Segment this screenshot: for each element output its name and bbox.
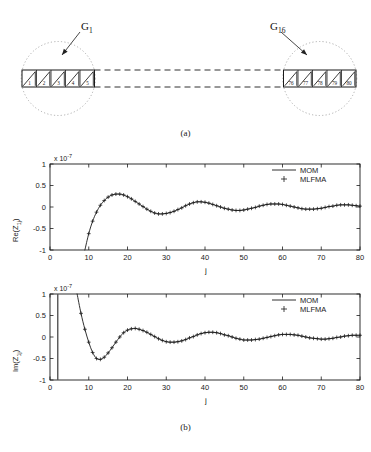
marker-plus (281, 203, 285, 207)
imag-part-plot-xtick-label: 40 (201, 383, 209, 392)
marker-plus (284, 203, 288, 207)
real-part-plot-xtick-label: 0 (48, 253, 52, 262)
marker-plus (168, 211, 172, 215)
imag-part-plot-xtick-label: 80 (356, 383, 364, 392)
marker-plus (184, 338, 188, 342)
marker-plus (315, 337, 319, 341)
cell-index-label: 4 (72, 80, 75, 86)
marker-plus (191, 201, 195, 205)
imag-part-plot-xtick-label: 10 (85, 383, 93, 392)
marker-plus (253, 338, 257, 342)
marker-plus (277, 333, 281, 337)
marker-plus (157, 337, 161, 341)
real-part-plot-xtick-label: 60 (278, 253, 286, 262)
marker-plus (257, 337, 261, 341)
real-part-plot-ytick-label: 0.5 (36, 181, 46, 190)
cell-index-label: 78 (317, 80, 323, 86)
marker-plus (157, 212, 161, 216)
marker-plus (91, 351, 95, 355)
marker-plus (343, 203, 347, 207)
marker-plus (261, 203, 265, 207)
marker-plus (129, 327, 133, 331)
marker-plus (87, 232, 91, 236)
cell-group-G1: 12345 (22, 70, 95, 87)
marker-plus (95, 210, 99, 214)
caption-b: (b) (0, 422, 371, 432)
marker-plus (207, 330, 211, 334)
marker-plus (188, 202, 192, 206)
marker-plus (253, 206, 257, 210)
imag-plot-legend-mlfma: MLFMA (300, 305, 326, 314)
imag-part-plot-ytick-label: -1 (39, 376, 46, 385)
marker-plus (114, 192, 118, 196)
marker-plus (312, 336, 316, 340)
marker-plus (269, 202, 273, 206)
marker-plus (164, 340, 168, 344)
imag-part-plot-xtick-label: 0 (48, 383, 52, 392)
real-part-plot-ytick-label: -1 (39, 246, 46, 255)
imag-part-plot-xtick-label: 20 (123, 383, 131, 392)
marker-plus (230, 335, 234, 339)
marker-plus (222, 333, 226, 337)
marker-plus (203, 331, 207, 335)
marker-plus (308, 336, 312, 340)
marker-plus (222, 206, 226, 210)
marker-plus (79, 311, 83, 315)
marker-plus (191, 335, 195, 339)
marker-plus (250, 338, 254, 342)
real-part-plot-series-mom-line (85, 194, 360, 250)
marker-plus (350, 203, 354, 207)
caption-a: (a) (0, 128, 371, 138)
real-part-plot-ytick-label: -0.5 (33, 224, 46, 233)
imag-plot-legend-mom: MOM (300, 296, 318, 305)
marker-plus (215, 204, 219, 208)
marker-plus (242, 208, 246, 212)
arrow-to-g1-head (62, 49, 68, 55)
marker-plus (126, 328, 130, 332)
cell-index-label: 3 (57, 80, 60, 86)
marker-plus (149, 209, 153, 213)
cell-index-label: 1 (28, 80, 31, 86)
real-part-plot-xtick-label: 40 (201, 253, 209, 262)
marker-plus (122, 193, 126, 197)
cell-index-label: 5 (86, 80, 89, 86)
marker-plus (234, 209, 238, 213)
cell-group-G16: 7677787980 (284, 70, 357, 87)
marker-plus (319, 337, 323, 341)
marker-plus (87, 340, 91, 344)
imag-part-plot-ytick-label: -0.5 (33, 354, 46, 363)
marker-plus (211, 330, 215, 334)
marker-plus (250, 206, 254, 210)
real-part-plot: x 10-7 Re(Z1j) 01020304050607080-1-0.500… (0, 150, 371, 280)
marker-plus (304, 207, 308, 211)
marker-plus (284, 333, 288, 337)
marker-plus (335, 203, 339, 207)
cell-index-label: 80 (346, 80, 352, 86)
marker-plus (246, 338, 250, 342)
cell-index-label: 79 (332, 80, 338, 86)
marker-plus (184, 204, 188, 208)
marker-plus (180, 206, 184, 210)
marker-plus (234, 336, 238, 340)
imag-part-plot-legend-plus-swatch (281, 306, 287, 312)
marker-plus (176, 208, 180, 212)
marker-plus (339, 203, 343, 207)
marker-plus (238, 337, 242, 341)
imag-part-plot-ytick-label: 0.5 (36, 311, 46, 320)
marker-plus (199, 332, 203, 336)
marker-plus (319, 206, 323, 210)
marker-plus (207, 201, 211, 205)
real-part-plot-legend-plus-swatch (281, 176, 287, 182)
marker-plus (331, 204, 335, 208)
real-part-plot-ytick-label: 1 (42, 160, 46, 169)
marker-plus (246, 207, 250, 211)
marker-plus (323, 206, 327, 210)
marker-plus (238, 209, 242, 213)
imag-part-plot-xtick-label: 30 (162, 383, 170, 392)
imag-part-plot-xtick-label: 50 (240, 383, 248, 392)
imag-part-plot-ytick-label: 0 (42, 333, 46, 342)
marker-plus (172, 209, 176, 213)
imag-part-plot-series-mlfma-markers (79, 311, 362, 361)
marker-plus (83, 327, 87, 331)
real-part-plot-xtick-label: 80 (356, 253, 364, 262)
